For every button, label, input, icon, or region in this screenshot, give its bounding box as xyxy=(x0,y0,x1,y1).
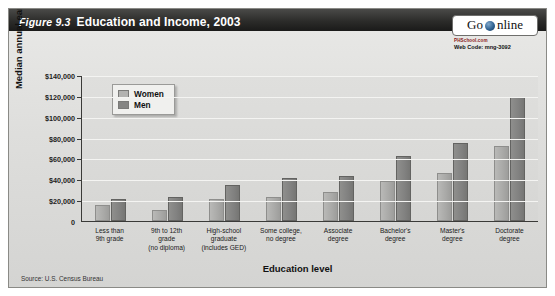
bar-men xyxy=(339,176,354,221)
bar-women xyxy=(152,210,167,221)
x-tick-label: Some college,no degree xyxy=(252,224,309,266)
y-tick-mark xyxy=(77,76,81,77)
x-tick-label: Bachelor'sdegree xyxy=(367,224,424,266)
y-tick-mark xyxy=(77,201,81,202)
gridline xyxy=(82,97,538,98)
bar-men xyxy=(111,199,126,221)
gridline xyxy=(82,201,538,202)
y-tick-label: $140,000 xyxy=(45,72,75,81)
y-tick-label: $100,000 xyxy=(45,113,75,122)
y-tick-label: $40,000 xyxy=(49,176,75,185)
figure-panel: Figure 9.3Education and Income, 2003 Gon… xyxy=(8,8,547,288)
globe-icon xyxy=(485,21,495,31)
plot-area: Women Men xyxy=(81,76,538,222)
bar-men xyxy=(396,156,411,221)
source-note: Source: U.S. Census Bureau xyxy=(21,275,103,282)
bar-men xyxy=(225,185,240,222)
y-tick-label: $20,000 xyxy=(49,197,75,206)
page-title: Education and Income, 2003 xyxy=(77,15,241,29)
y-tick-mark xyxy=(77,118,81,119)
y-tick-mark xyxy=(77,180,81,181)
chart-area: Median annual earnings $140,000$120,000$… xyxy=(9,31,546,288)
gridline xyxy=(82,139,538,140)
bar-women xyxy=(209,199,224,221)
bar-women xyxy=(323,192,338,221)
gridline xyxy=(82,180,538,181)
bar-men xyxy=(453,143,468,221)
x-axis-title: Education level xyxy=(9,263,546,274)
x-tick-label: High-schoolgraduate(includes GED) xyxy=(195,224,252,266)
x-tick-label: Less than9th grade xyxy=(81,224,138,266)
bar-women xyxy=(494,146,509,221)
figure-header-text: Figure 9.3Education and Income, 2003 xyxy=(19,12,241,30)
y-tick-mark xyxy=(77,97,81,98)
figure-number: Figure 9.3 xyxy=(19,16,71,28)
x-tick-label: Doctoratedegree xyxy=(481,224,538,266)
bar-women xyxy=(95,205,110,221)
gridline xyxy=(82,76,538,77)
y-axis-ticks: $140,000$120,000$100,000$80,000$60,000$4… xyxy=(23,31,75,288)
x-tick-label: Master'sdegree xyxy=(424,224,481,266)
gridline xyxy=(82,159,538,160)
x-tick-label: Associatedegree xyxy=(310,224,367,266)
y-tick-label: $120,000 xyxy=(45,92,75,101)
y-tick-mark xyxy=(77,159,81,160)
y-tick-label: 0 xyxy=(71,218,75,227)
x-tick-label: 9th to 12thgrade(no diploma) xyxy=(138,224,195,266)
y-tick-label: $60,000 xyxy=(49,155,75,164)
bar-men xyxy=(282,178,297,221)
x-axis-labels: Less than9th grade9th to 12thgrade(no di… xyxy=(81,224,538,266)
gridline xyxy=(82,118,538,119)
y-tick-mark xyxy=(77,139,81,140)
y-tick-label: $80,000 xyxy=(49,134,75,143)
